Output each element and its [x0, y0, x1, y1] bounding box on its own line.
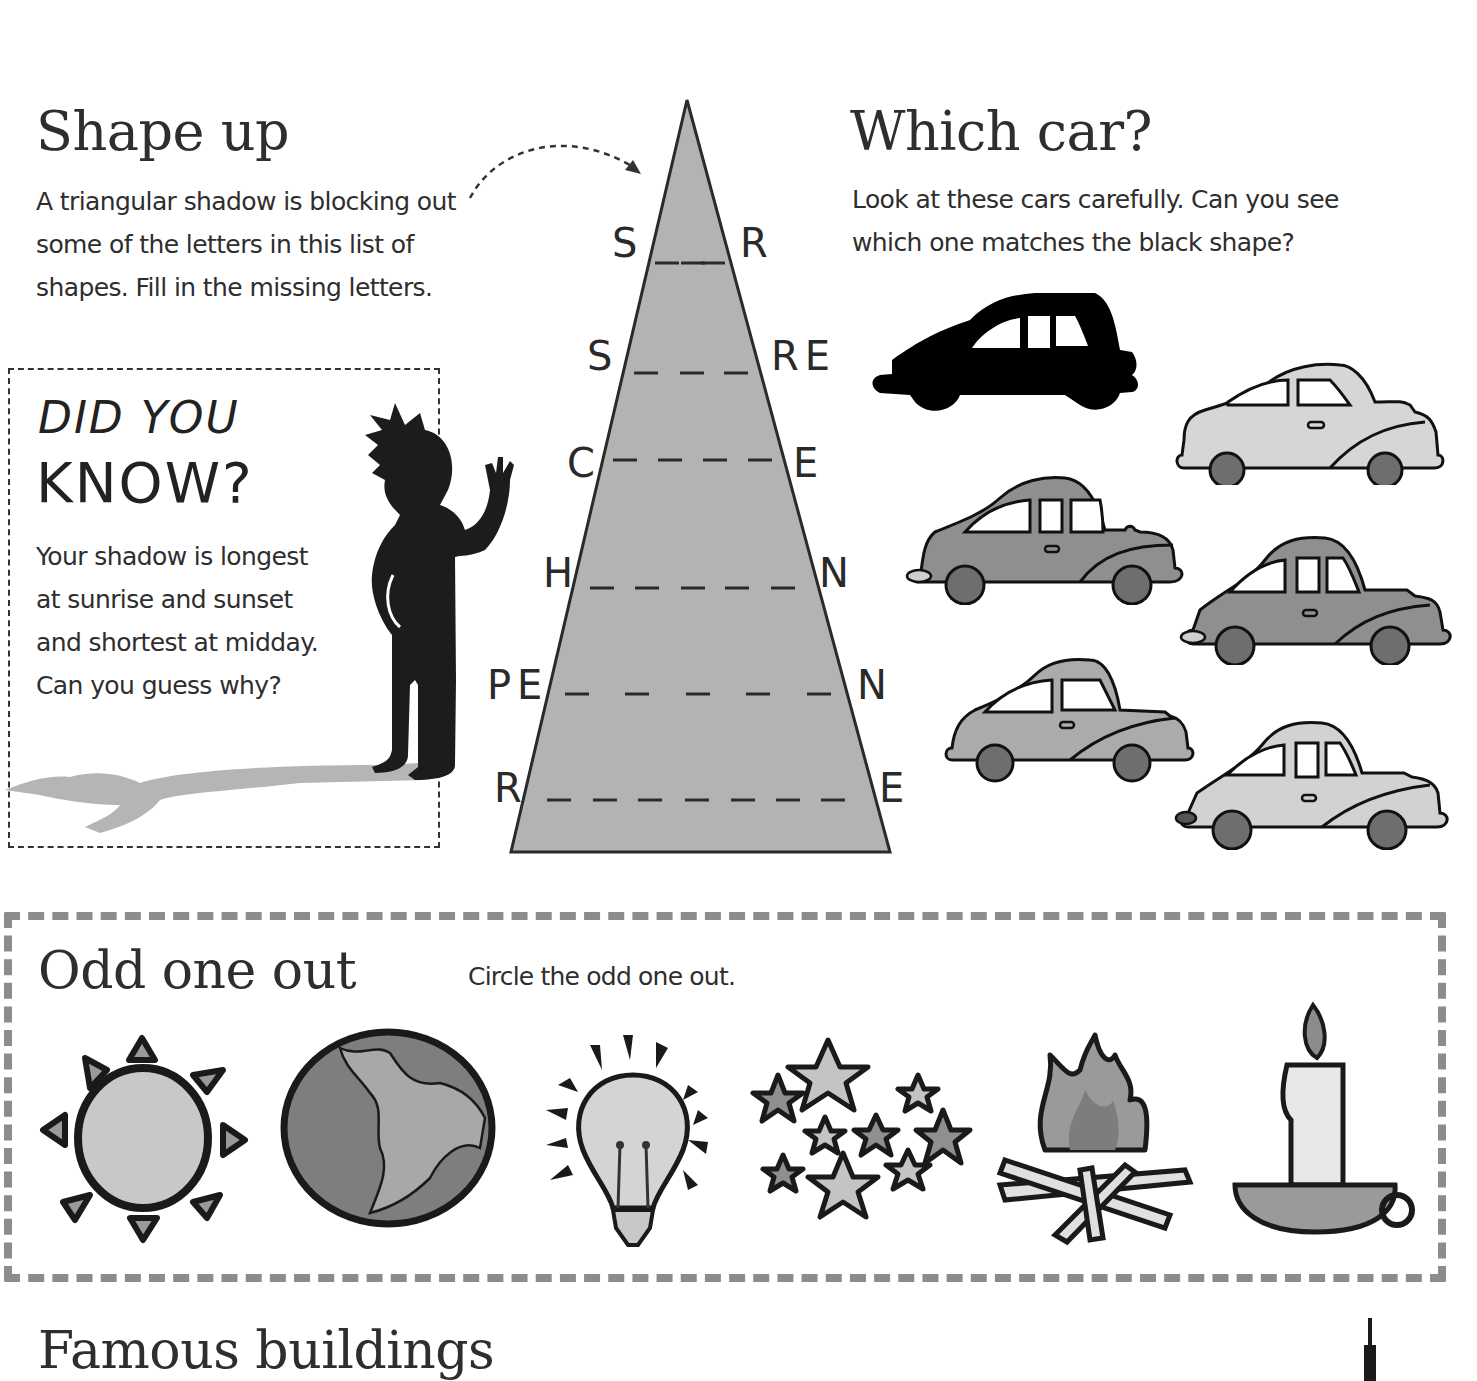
row3-left: C	[567, 440, 601, 486]
shape-up-title: Shape up	[36, 100, 289, 163]
which-car-title: Which car?	[850, 100, 1152, 163]
odd-one-out-title: Odd one out	[38, 940, 356, 1000]
instruction-line: which one matches the black shape?	[852, 221, 1452, 264]
row2-right: RE	[771, 333, 836, 379]
spire-base	[1364, 1345, 1376, 1381]
earth-icon[interactable]	[280, 1028, 500, 1228]
car-option-3[interactable]	[1175, 530, 1460, 665]
shadow-triangle	[505, 95, 897, 857]
car-option-5[interactable]	[1172, 715, 1457, 850]
row3-right: E	[793, 440, 824, 486]
car-option-4[interactable]	[940, 650, 1200, 785]
candle-icon[interactable]	[1225, 1000, 1420, 1240]
light-bulb-icon[interactable]	[538, 1030, 718, 1250]
odd-one-out-instruction: Circle the odd one out.	[468, 962, 735, 991]
instruction-line: shapes. Fill in the missing letters.	[36, 266, 536, 309]
row1-right: R	[740, 220, 774, 266]
car-silhouette	[870, 290, 1145, 420]
car-option-2[interactable]	[905, 470, 1195, 605]
sun-icon[interactable]	[35, 1030, 250, 1250]
row6-right: E	[879, 765, 910, 811]
car-option-1[interactable]	[1170, 360, 1450, 485]
instruction-line: Look at these cars carefully. Can you se…	[852, 178, 1452, 221]
row4-left: H	[543, 550, 579, 596]
row5-right: N	[857, 662, 893, 708]
stars-icon[interactable]	[748, 1035, 973, 1235]
instruction-line: some of the letters in this list of	[36, 223, 536, 266]
row2-left: S	[587, 333, 618, 379]
campfire-icon[interactable]	[995, 1010, 1195, 1250]
famous-buildings-title: Famous buildings	[38, 1320, 494, 1380]
which-car-instructions: Look at these cars carefully. Can you se…	[852, 178, 1452, 264]
row4-right: N	[819, 550, 855, 596]
row1-left: S	[612, 220, 643, 266]
person-silhouette-illustration	[0, 395, 530, 850]
